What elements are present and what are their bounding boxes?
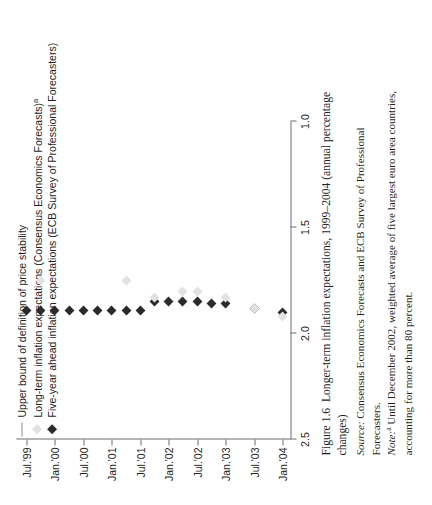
value-tick-label: 2.0	[298, 326, 310, 341]
category-tick-label: Jan.'01	[105, 447, 117, 489]
data-point	[177, 296, 187, 306]
caption-title-text: Longer-term inflation expectations, 1999…	[319, 91, 348, 455]
category-tick	[111, 439, 112, 445]
category-tick	[140, 439, 141, 445]
caption-figure-number: Figure 1.6	[319, 407, 332, 455]
value-tick-label: 1.0	[298, 114, 310, 129]
category-tick	[168, 439, 169, 445]
value-tick	[290, 226, 296, 227]
category-tick-label: Jul.'99	[20, 447, 32, 489]
figure-caption: Figure 1.6 Longer-term inflation expecta…	[318, 85, 416, 455]
caption-note-label: Note:	[385, 430, 397, 455]
value-tick	[290, 332, 296, 333]
category-tick-label: Jan.'03	[219, 447, 231, 489]
data-point	[249, 303, 259, 313]
legend-label-upper-bound: Upper bound of definition of price stabi…	[16, 224, 27, 417]
category-tick-label: Jan.'04	[276, 447, 288, 489]
dark-diamond-icon	[47, 424, 56, 433]
data-point	[192, 296, 202, 306]
chart-legend: Upper bound of definition of price stabi…	[14, 42, 59, 437]
caption-title-line: Figure 1.6 Longer-term inflation expecta…	[318, 85, 351, 455]
data-point	[78, 305, 88, 315]
value-tick-label: 2.5	[298, 432, 310, 447]
legend-footnote-marker: a	[30, 98, 39, 102]
legend-dark-diamond-key	[48, 421, 55, 437]
category-tick	[54, 439, 55, 445]
data-point	[135, 305, 145, 315]
data-point	[163, 296, 173, 306]
light-diamond-icon	[32, 424, 41, 433]
category-axis-line	[16, 438, 290, 439]
data-point	[192, 286, 202, 296]
legend-line-key	[21, 421, 22, 437]
legend-label-ecb-spf: Five-year ahead inflation expectations (…	[46, 42, 57, 417]
legend-light-diamond-key	[33, 421, 40, 437]
data-point	[92, 305, 102, 315]
category-tick-label: Jul.'00	[77, 447, 89, 489]
category-tick	[225, 439, 226, 445]
category-tick	[197, 439, 198, 445]
category-tick-label: Jul.'03	[248, 447, 260, 489]
category-tick-label: Jul.'01	[134, 447, 146, 489]
category-tick	[83, 439, 84, 445]
rotated-figure-stage: Upper bound of definition of price stabi…	[0, 0, 432, 505]
data-point	[121, 275, 131, 285]
category-tick	[26, 439, 27, 445]
category-tick-label: Jan.'00	[48, 447, 60, 489]
data-point	[177, 286, 187, 296]
data-point	[106, 305, 116, 315]
caption-note-marker: a	[383, 427, 392, 430]
chart-plot-area: Upper bound of definition of price stabi…	[8, 71, 308, 489]
caption-note-text: Until December 2002, weighted average of…	[385, 91, 413, 455]
category-tick-label: Jan.'02	[162, 447, 174, 489]
value-tick	[290, 120, 296, 121]
legend-item-consensus: Long-term inflation expectations (Consen…	[29, 42, 44, 437]
legend-item-ecb-spf: Five-year ahead inflation expectations (…	[44, 42, 59, 437]
value-tick	[290, 438, 296, 439]
data-point	[206, 298, 216, 308]
reference-line-icon	[21, 422, 22, 436]
category-tick	[254, 439, 255, 445]
value-axis-line	[290, 121, 291, 439]
legend-label-consensus-text: Long-term inflation expectations (Consen…	[31, 102, 43, 417]
category-tick	[282, 439, 283, 445]
value-tick-label: 1.5	[298, 220, 310, 235]
caption-source-label: Source:	[353, 421, 365, 455]
data-point	[64, 305, 74, 315]
legend-item-upper-bound: Upper bound of definition of price stabi…	[14, 42, 29, 437]
caption-source-line: Source: Consensus Economics Forecasts an…	[352, 85, 384, 455]
category-tick-label: Jul.'02	[191, 447, 203, 489]
figure-page: Upper bound of definition of price stabi…	[0, 0, 432, 505]
legend-label-consensus: Long-term inflation expectations (Consen…	[31, 98, 43, 417]
data-point	[121, 305, 131, 315]
caption-note-line: Note:a Until December 2002, weighted ave…	[383, 85, 415, 455]
caption-source-text: Consensus Economics Forecasts and ECB Su…	[353, 127, 381, 455]
